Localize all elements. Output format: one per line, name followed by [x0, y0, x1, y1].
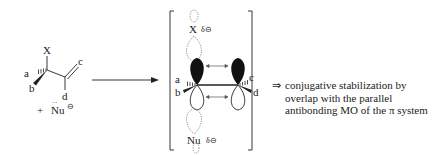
c-c-bond: [47, 70, 65, 77]
plus-sign: +: [37, 104, 43, 116]
ts-label-b: b: [175, 86, 181, 98]
overlap-arrow-bottom: [206, 96, 228, 99]
reaction-arrow: [92, 77, 159, 83]
ts-hashed-bond-c: [240, 80, 248, 86]
label-a: a: [24, 67, 29, 79]
annotation-line-1: conjugative stabilization by: [285, 79, 428, 92]
reactant-structure: X a b c d + Nu ·· ⊖: [24, 44, 83, 116]
x-orbital-large-lobe: [187, 36, 202, 62]
sn2-prime-diagram: X a b c d + Nu ·· ⊖ X δ⊖: [0, 0, 442, 155]
nu-orbital-large-lobe: [187, 108, 202, 134]
lone-pair-dots: ··: [52, 98, 57, 107]
label-b: b: [29, 82, 35, 94]
nucleophile-charge: ⊖: [67, 102, 74, 111]
ts-label-nu: Nu: [187, 134, 201, 146]
ts-label-a: a: [175, 73, 180, 85]
ts-wedge-bond-b: [183, 85, 197, 93]
label-x: X: [43, 44, 51, 56]
annotation-line-3: antibonding MO of the π system: [285, 104, 428, 117]
label-d: d: [62, 90, 68, 102]
label-c: c: [78, 55, 83, 67]
left-bracket: [170, 11, 174, 150]
ts-charge-nu: δ⊖: [206, 136, 217, 145]
wedge-bond-b: [33, 70, 47, 86]
ts-charge-x: δ⊖: [201, 25, 212, 34]
ts-label-d: d: [253, 86, 259, 98]
hashed-bond-a: [39, 69, 47, 75]
left-p-orbital-open: [190, 85, 204, 110]
right-p-orbital-open: [231, 85, 245, 110]
x-orbital-small-lobe: [190, 10, 198, 22]
transition-state: X δ⊖ a b: [170, 10, 259, 153]
ts-label-c: c: [249, 71, 254, 83]
ts-label-x: X: [189, 23, 197, 35]
annotation-line-2: overlap with the parallel: [285, 92, 428, 105]
ts-hashed-bond-a: [188, 82, 196, 87]
right-p-orbital-filled: [231, 58, 245, 85]
ts-wedge-bond-d: [238, 85, 252, 93]
overlap-arrow-top: [206, 65, 228, 68]
left-p-orbital-filled: [190, 58, 204, 85]
implies-arrow-icon: ⇒: [272, 79, 281, 92]
